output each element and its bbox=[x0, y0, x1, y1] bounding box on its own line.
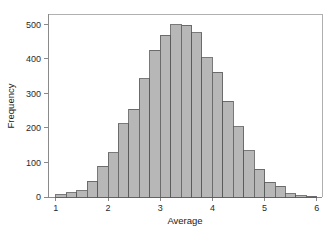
histogram-bar bbox=[171, 25, 181, 197]
y-tick-label: 200 bbox=[26, 123, 41, 133]
histogram-bar bbox=[66, 193, 76, 197]
histogram-bar bbox=[254, 169, 264, 197]
x-axis-label: Average bbox=[167, 215, 202, 226]
histogram-bar bbox=[244, 151, 254, 197]
histogram-bar bbox=[160, 35, 170, 197]
histogram-bar bbox=[233, 127, 243, 197]
y-axis-label: Frequency bbox=[5, 83, 16, 128]
y-tick-label: 300 bbox=[26, 89, 41, 99]
histogram-chart: 0100200300400500 123456 Average Frequenc… bbox=[0, 0, 336, 236]
histogram-bar bbox=[223, 101, 233, 197]
histogram-bar bbox=[150, 50, 160, 197]
histogram-bar bbox=[181, 25, 191, 197]
y-tick-label: 100 bbox=[26, 158, 41, 168]
x-tick-label: 4 bbox=[210, 203, 215, 213]
histogram-bar bbox=[212, 72, 222, 197]
histogram-bar bbox=[296, 196, 306, 197]
histogram-bar bbox=[87, 181, 97, 197]
x-tick-label: 5 bbox=[262, 203, 267, 213]
histogram-bar bbox=[108, 153, 118, 197]
x-tick-label: 6 bbox=[314, 203, 319, 213]
x-tick-label: 2 bbox=[106, 203, 111, 213]
histogram-bar bbox=[275, 186, 285, 197]
histogram-bar bbox=[306, 196, 316, 197]
histogram-bar bbox=[139, 79, 149, 197]
histogram-bar bbox=[77, 191, 87, 197]
histogram-bar bbox=[98, 166, 108, 197]
x-tick-label: 1 bbox=[53, 203, 58, 213]
histogram-bar bbox=[129, 109, 139, 197]
histogram-bar bbox=[202, 58, 212, 197]
histogram-bar bbox=[192, 33, 202, 197]
y-tick-label: 500 bbox=[26, 20, 41, 30]
x-tick-label: 3 bbox=[158, 203, 163, 213]
histogram-bar bbox=[56, 195, 66, 197]
histogram-screenshot: 0100200300400500 123456 Average Frequenc… bbox=[0, 0, 336, 236]
histogram-bar bbox=[285, 194, 295, 197]
y-tick-label: 0 bbox=[36, 192, 41, 202]
histogram-bar bbox=[118, 124, 128, 197]
y-tick-label: 400 bbox=[26, 54, 41, 64]
histogram-bar bbox=[265, 182, 275, 197]
